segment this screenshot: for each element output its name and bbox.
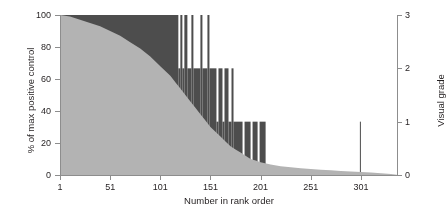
y-tick-left bbox=[55, 111, 60, 112]
x-tick-label: 51 bbox=[90, 182, 130, 192]
x-tick bbox=[110, 175, 111, 180]
y-tick-label-right: 0 bbox=[405, 170, 425, 180]
x-tick bbox=[210, 175, 211, 180]
plot-area bbox=[60, 15, 397, 175]
y-tick-right bbox=[397, 15, 402, 16]
y-tick-label-left: 100 bbox=[21, 10, 51, 20]
x-tick bbox=[311, 175, 312, 180]
y-axis-right-title: Visual grade bbox=[435, 21, 446, 181]
y-axis-right-line bbox=[397, 15, 398, 176]
x-tick bbox=[361, 175, 362, 180]
x-tick-label: 151 bbox=[190, 182, 230, 192]
x-tick-label: 251 bbox=[291, 182, 331, 192]
y-tick-right bbox=[397, 122, 402, 123]
y-tick-label-right: 1 bbox=[405, 117, 425, 127]
x-axis-title: Number in rank order bbox=[60, 195, 398, 206]
y-tick-left bbox=[55, 15, 60, 16]
x-tick-label: 301 bbox=[341, 182, 381, 192]
y-tick-right bbox=[397, 175, 402, 176]
y-tick-right bbox=[397, 68, 402, 69]
y-tick-left bbox=[55, 79, 60, 80]
y-tick-left bbox=[55, 143, 60, 144]
x-tick-label: 201 bbox=[241, 182, 281, 192]
x-tick bbox=[261, 175, 262, 180]
x-tick bbox=[60, 175, 61, 180]
y-tick-left bbox=[55, 47, 60, 48]
y-tick-label-right: 3 bbox=[405, 10, 425, 20]
x-tick bbox=[160, 175, 161, 180]
y-axis-left-title: % of max positive control bbox=[25, 21, 36, 181]
x-tick-label: 101 bbox=[140, 182, 180, 192]
chart-canvas bbox=[60, 15, 397, 175]
x-tick-label: 1 bbox=[40, 182, 80, 192]
y-tick-label-right: 2 bbox=[405, 63, 425, 73]
y-axis-left-line bbox=[60, 15, 61, 176]
